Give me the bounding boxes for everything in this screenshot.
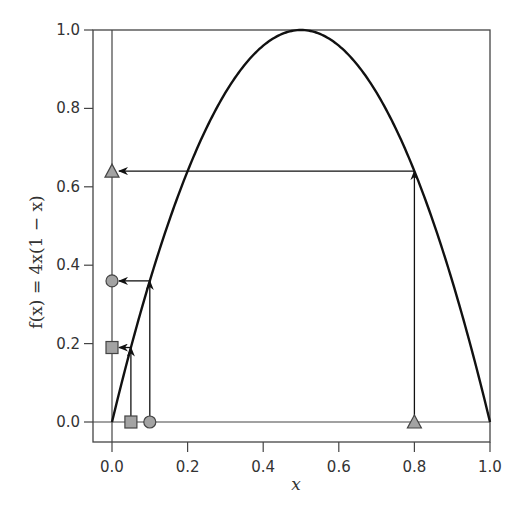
y-tick-label: 0.2 [56, 335, 80, 353]
x-tick-label: 0.0 [100, 458, 124, 476]
triangle-output-marker [105, 164, 119, 177]
mapping-arrows [119, 171, 414, 422]
square-output-marker [106, 342, 118, 354]
y-tick-label: 0.4 [56, 256, 80, 274]
logistic-map-chart: 0.00.20.40.60.81.00.00.20.40.60.81.0 x f… [0, 0, 525, 517]
x-axis-label: x [291, 474, 301, 494]
y-tick-label: 0.0 [56, 413, 80, 431]
circle-output-marker [106, 275, 118, 287]
square-input-marker [125, 416, 137, 428]
x-tick-label: 0.8 [402, 458, 426, 476]
x-tick-label: 1.0 [478, 458, 502, 476]
plot-frame [93, 30, 490, 442]
curve [112, 30, 490, 422]
y-tick-label: 0.8 [56, 99, 80, 117]
ticks: 0.00.20.40.60.81.00.00.20.40.60.81.0 [56, 21, 502, 476]
x-tick-label: 0.4 [251, 458, 275, 476]
circle-input-marker [144, 416, 156, 428]
y-tick-label: 1.0 [56, 21, 80, 39]
axes [93, 30, 490, 442]
markers [105, 164, 421, 428]
y-axis-label: f(x) = 4x(1 − x) [26, 195, 46, 328]
logistic-curve [112, 30, 490, 422]
x-tick-label: 0.6 [327, 458, 351, 476]
x-tick-label: 0.2 [176, 458, 200, 476]
y-tick-label: 0.6 [56, 178, 80, 196]
